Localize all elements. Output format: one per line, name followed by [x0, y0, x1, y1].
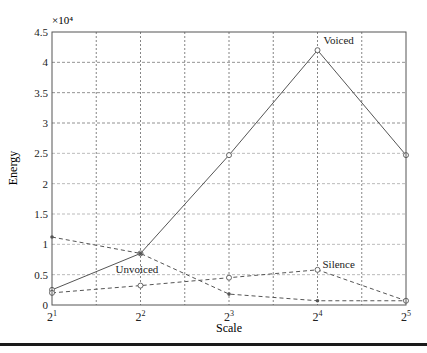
- series-annotation-silence: Silence: [323, 258, 355, 270]
- y-tick-label: 2.5: [34, 147, 48, 159]
- energy-scale-chart: VoicedUnvoicedSilence 00.511.522.533.544…: [0, 0, 427, 343]
- y-tick-label: 2: [43, 178, 49, 190]
- x-tick-label: 24: [313, 309, 323, 324]
- x-tick-label: 22: [136, 309, 146, 324]
- data-point: [316, 299, 320, 303]
- data-point: [139, 252, 143, 256]
- x-tick-label: 21: [47, 309, 57, 324]
- x-tick-label: 25: [401, 309, 411, 324]
- data-point: [227, 153, 232, 158]
- y-tick-label: 3: [43, 117, 49, 129]
- data-point: [138, 283, 143, 288]
- bottom-rule: [0, 343, 427, 346]
- y-tick-label: 1: [43, 238, 49, 250]
- data-point: [227, 292, 231, 296]
- y-tick-label: 4.5: [34, 26, 48, 38]
- series-annotation-unvoiced: Unvoiced: [116, 263, 159, 275]
- data-point: [315, 48, 320, 53]
- y-axis-label: Energy: [6, 151, 20, 185]
- y-tick-label: 0.5: [34, 269, 48, 281]
- series-annotation-voiced: Voiced: [324, 34, 355, 46]
- data-point: [315, 267, 320, 272]
- x-axis-label: Scale: [216, 321, 242, 335]
- y-tick-label: 1.5: [34, 208, 48, 220]
- axes: 00.511.522.533.544.52122232425: [34, 26, 411, 324]
- y-multiplier-label: ×10⁴: [52, 14, 73, 26]
- y-tick-label: 4: [43, 56, 49, 68]
- data-point: [227, 275, 232, 280]
- y-tick-label: 3.5: [34, 87, 48, 99]
